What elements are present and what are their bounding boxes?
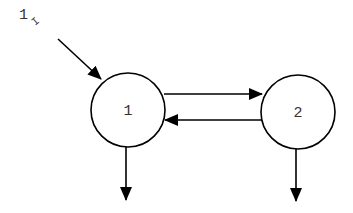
node-1: 1 (91, 73, 165, 147)
node-2-label: 2 (293, 105, 302, 122)
input-arrow (58, 39, 101, 79)
input-label: 1 I (19, 7, 42, 28)
node-2: 2 (261, 75, 335, 149)
compartment-diagram: 1 I 1 2 (0, 0, 353, 213)
input-label-main: 1 (19, 7, 28, 24)
node-1-label: 1 (123, 103, 132, 120)
input-label-subscript: I (29, 15, 42, 28)
